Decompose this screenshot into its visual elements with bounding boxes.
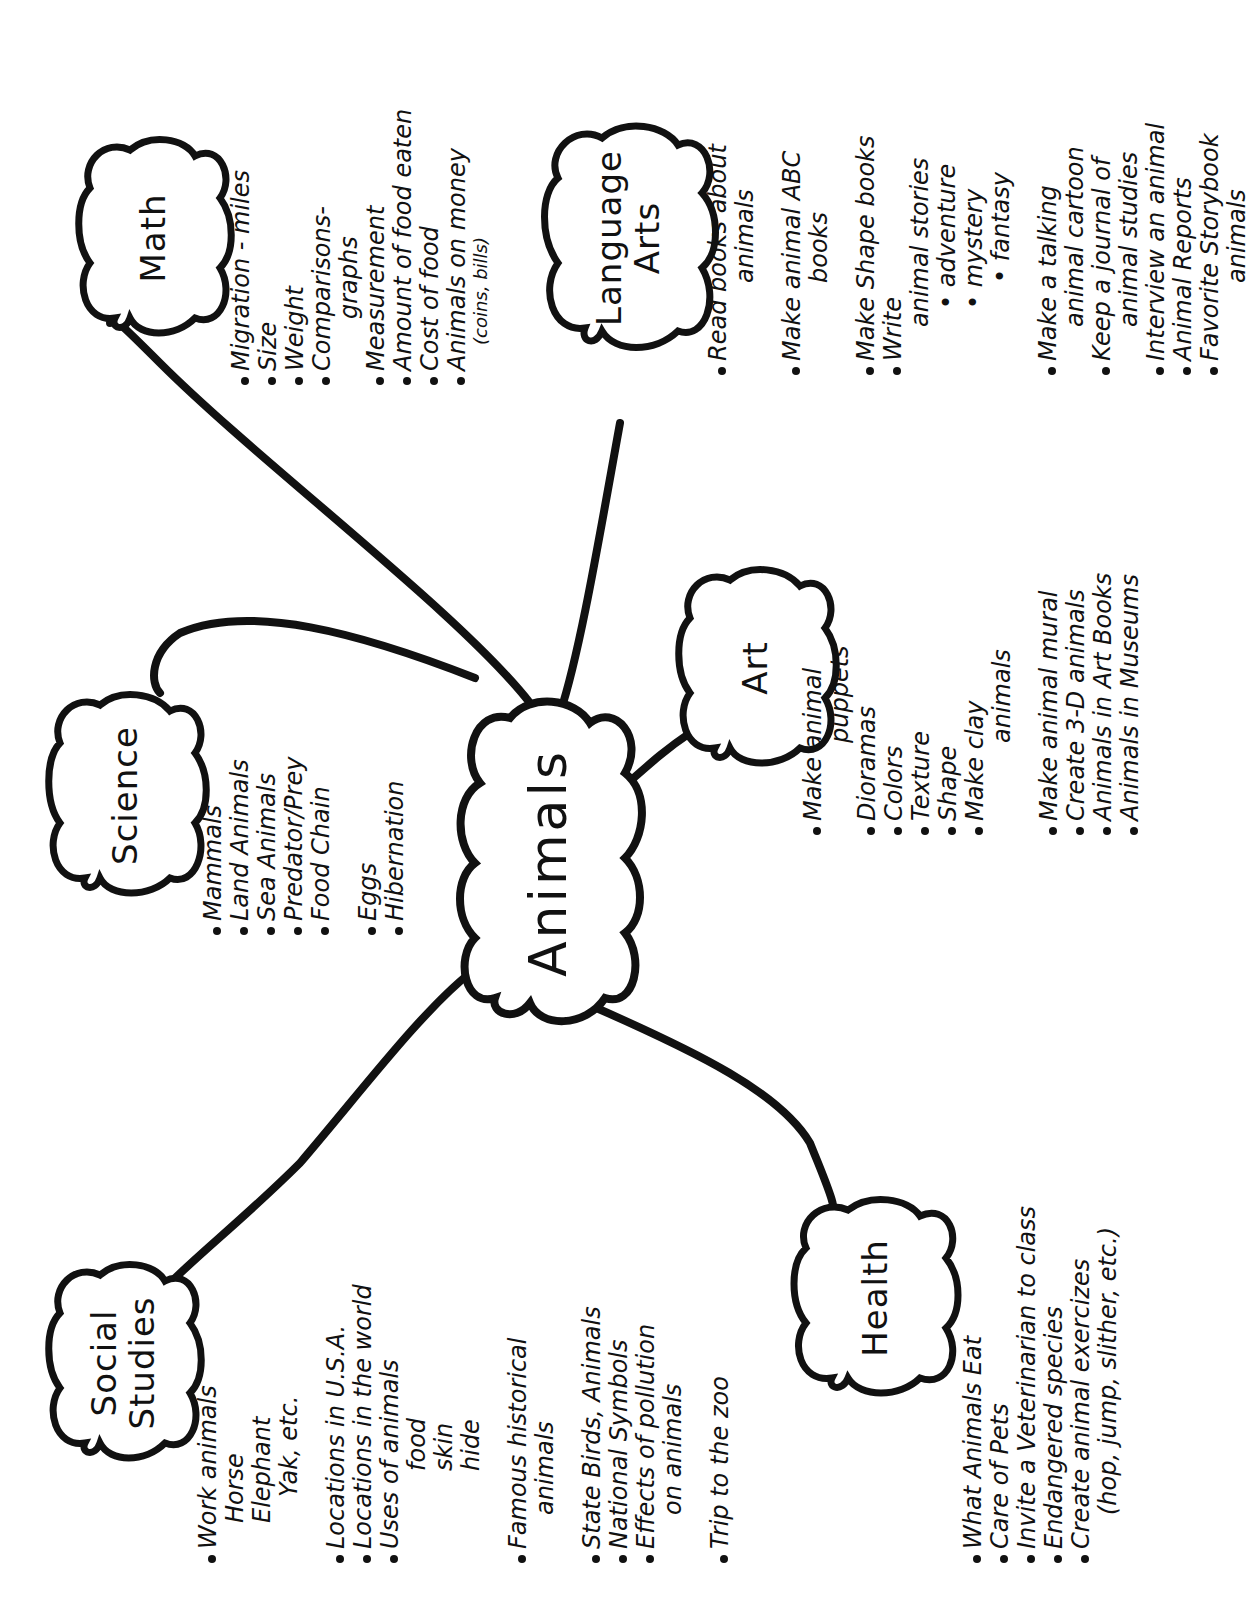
connector-health	[585, 1003, 834, 1223]
list-item: Horse	[222, 1284, 249, 1563]
list-item: hide	[458, 1284, 485, 1563]
list-item: Weight	[282, 109, 309, 385]
list-item: Animals in Art Books	[1090, 573, 1117, 835]
list-item: graphs	[336, 109, 363, 385]
list-item: Effects of pollution	[633, 1284, 660, 1563]
list-item: National Symbols	[606, 1284, 633, 1563]
list-item: Animal Reports	[1170, 123, 1197, 375]
branch-node-language-arts[interactable]: Language Arts	[540, 123, 715, 353]
branch-node-math[interactable]: Math	[75, 138, 230, 338]
list-item: (hop, jump, slither, etc.)	[1095, 1206, 1122, 1563]
list-item: Endangered species	[1041, 1206, 1068, 1563]
branch-node-health[interactable]: Health	[790, 1198, 960, 1398]
science-item-list: MammalsLand AnimalsSea AnimalsPredator/P…	[200, 757, 409, 935]
language-arts-item-list: Read books aboutanimalsMake animal ABCbo…	[705, 123, 1250, 375]
list-item: • mystery	[961, 123, 988, 375]
language-arts-label-line1: Language	[590, 150, 628, 326]
list-item: skin	[431, 1284, 458, 1563]
list-item: Animals on money	[444, 109, 471, 385]
list-item: State Birds, Animals	[579, 1284, 606, 1563]
list-item: Famous historical	[505, 1284, 532, 1563]
list-item: animals	[732, 123, 759, 375]
list-item: on animals	[660, 1284, 687, 1563]
list-item: Size	[255, 109, 282, 385]
list-item: Favorite Storybook	[1197, 123, 1224, 375]
list-item: Make Shape books	[853, 123, 880, 375]
branch-node-science[interactable]: Science	[45, 693, 205, 898]
list-item: Work animals	[195, 1284, 222, 1563]
branch-node-social-studies[interactable]: Social Studies	[45, 1263, 200, 1463]
list-item: animals	[989, 573, 1016, 835]
list-item: Dioramas	[854, 573, 881, 835]
list-item: animals	[1224, 123, 1250, 375]
list-item: Land Animals	[227, 757, 254, 935]
list-item: books	[806, 123, 833, 375]
list-item: Food Chain	[308, 757, 335, 935]
list-item: animal studies	[1116, 123, 1143, 375]
list-item: Create 3-D animals	[1063, 573, 1090, 835]
list-item: Care of Pets	[987, 1206, 1014, 1563]
math-label: Math	[134, 193, 172, 282]
list-item: Sea Animals	[254, 757, 281, 935]
list-item: animals	[532, 1284, 559, 1563]
center-label: Animals	[529, 749, 567, 977]
social-studies-item-list: Work animalsHorseElephantYak, etc.Locati…	[195, 1284, 734, 1563]
list-item: animal stories	[907, 123, 934, 375]
list-item: Invite a Veterinarian to class	[1014, 1206, 1041, 1563]
health-item-list: What Animals EatCare of PetsInvite a Vet…	[960, 1206, 1122, 1563]
social-studies-label-line1: Social	[85, 1296, 123, 1429]
list-item: Hibernation	[382, 757, 409, 935]
list-item: Measurement	[363, 109, 390, 385]
connector-language-arts	[560, 423, 620, 713]
math-item-list: Migration - milesSizeWeightComparisons-g…	[228, 109, 491, 385]
list-item: Cost of food	[417, 109, 444, 385]
language-arts-label-line2: Arts	[628, 150, 666, 326]
list-item: Make animal mural	[1036, 573, 1063, 835]
list-item: Interview an animal	[1143, 123, 1170, 375]
list-item: Yak, etc.	[276, 1284, 303, 1563]
list-item: Animals in Museums	[1117, 573, 1144, 835]
list-item: Keep a journal of	[1089, 123, 1116, 375]
list-item: Trip to the zoo	[707, 1284, 734, 1563]
list-item: Locations in the world	[350, 1284, 377, 1563]
list-item: What Animals Eat	[960, 1206, 987, 1563]
list-item: (coins, bills)	[471, 109, 491, 385]
list-item: Uses of animals	[377, 1284, 404, 1563]
connector-science	[154, 621, 475, 693]
list-item: • adventure	[934, 123, 961, 375]
list-item: Elephant	[249, 1284, 276, 1563]
list-item: Amount of food eaten	[390, 109, 417, 385]
list-item: Comparisons-	[309, 109, 336, 385]
art-item-list: Make animalpuppetsDioramasColorsTextureS…	[800, 573, 1144, 835]
list-item: Eggs	[355, 757, 382, 935]
list-item: Make a talking	[1035, 123, 1062, 375]
health-label: Health	[856, 1239, 894, 1357]
art-label: Art	[736, 641, 774, 695]
list-item: Migration - miles	[228, 109, 255, 385]
list-item: Create animal exercizes	[1068, 1206, 1095, 1563]
list-item: Make animal	[800, 573, 827, 835]
list-item: food	[404, 1284, 431, 1563]
list-item: • fantasy	[988, 123, 1015, 375]
list-item: animal cartoon	[1062, 123, 1089, 375]
list-item: Make clay	[962, 573, 989, 835]
list-item: Colors	[881, 573, 908, 835]
list-item: Read books about	[705, 123, 732, 375]
list-item: Locations in U.S.A.	[323, 1284, 350, 1563]
list-item: Predator/Prey	[281, 757, 308, 935]
list-item: Shape	[935, 573, 962, 835]
list-item: Mammals	[200, 757, 227, 935]
center-node-animals[interactable]: Animals	[455, 698, 640, 1028]
list-item: puppets	[827, 573, 854, 835]
list-item: Write	[880, 123, 907, 375]
social-studies-label-line2: Studies	[123, 1296, 161, 1429]
list-item: Texture	[908, 573, 935, 835]
list-item: Make animal ABC	[779, 123, 806, 375]
science-label: Science	[106, 726, 144, 865]
